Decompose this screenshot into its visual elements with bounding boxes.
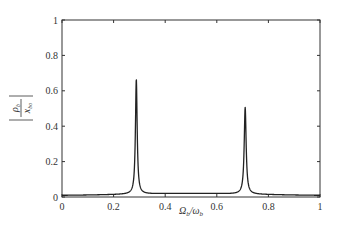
x-tick-label: 0.4 (159, 201, 172, 212)
x-tick-label: 1 (318, 201, 323, 212)
x-tick-label: 0 (60, 201, 65, 212)
plot-frame (62, 20, 320, 197)
y-axis-label: ρbxbo (9, 96, 33, 120)
y-tick-label: 1 (53, 15, 58, 26)
chart: 00.20.40.60.8100.20.40.60.81 Ωb/ωb ρbxbo (0, 0, 337, 238)
x-tick-label: 0.2 (107, 201, 120, 212)
axis-ticks (62, 20, 320, 197)
x-tick-label: 0.6 (211, 201, 224, 212)
x-axis-label: Ωb/ωb (179, 205, 204, 218)
svg-text:ρb: ρb (9, 104, 21, 113)
series-line (62, 80, 320, 195)
svg-text:xbo: xbo (21, 103, 33, 114)
x-tick-label: 0.8 (262, 201, 275, 212)
y-tick-label: 0.8 (46, 50, 59, 61)
tick-labels: 00.20.40.60.8100.20.40.60.81 (46, 15, 323, 213)
y-tick-label: 0 (53, 192, 58, 203)
y-tick-label: 0.6 (46, 85, 59, 96)
y-tick-label: 0.2 (46, 156, 59, 167)
y-tick-label: 0.4 (46, 121, 59, 132)
